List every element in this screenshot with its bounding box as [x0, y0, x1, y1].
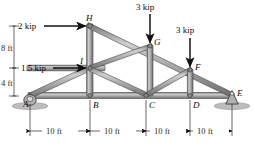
- dim-label-8ft: 8 ft: [1, 43, 13, 53]
- joint-label-H: H: [85, 13, 93, 23]
- dim-label-DE: 10 ft: [197, 126, 213, 136]
- member-G-C: [147, 45, 153, 96]
- pin-B: [88, 93, 92, 97]
- dim-label-CD: 10 ft: [154, 126, 170, 136]
- pin-C: [144, 93, 148, 97]
- pin-D: [188, 93, 192, 97]
- dim-label-4ft: 4 ft: [1, 78, 13, 88]
- load-arrow-3kip-G: 3 kip: [136, 2, 155, 43]
- pin-I: [88, 66, 92, 70]
- member-I-G: [90, 44, 153, 70]
- joint-label-G: G: [154, 37, 161, 47]
- truss-diagram: 2 kip 1.5 kip 3 kip 3 kip 8 ft 4 ft: [0, 0, 255, 149]
- joint-label-F: F: [194, 62, 201, 72]
- truss-members: [24, 23, 234, 108]
- joint-label-C: C: [149, 100, 156, 110]
- load-arrow-3kip-F: 3 kip: [176, 25, 195, 67]
- truss-svg: 2 kip 1.5 kip 3 kip 3 kip 8 ft 4 ft: [0, 0, 255, 149]
- load-label-3kip-G: 3 kip: [136, 2, 155, 12]
- horizontal-dimension-labels: 10 ft 10 ft 10 ft 10 ft: [42, 125, 229, 136]
- load-label-2kip: 2 kip: [18, 21, 37, 31]
- member-bottom-chord: [28, 93, 234, 99]
- pin-H: [88, 24, 92, 28]
- joint-label-D: D: [192, 100, 200, 110]
- member-H-B: [87, 24, 93, 96]
- pin-F: [188, 68, 192, 72]
- dim-label-AB: 10 ft: [46, 126, 62, 136]
- load-arrow-2kip: 2 kip: [18, 21, 86, 31]
- member-F-D: [187, 69, 193, 96]
- load-label-3kip-F: 3 kip: [176, 25, 195, 35]
- joint-label-I: I: [79, 56, 84, 66]
- joint-label-B: B: [93, 100, 99, 110]
- joint-label-E: E: [236, 88, 243, 98]
- pin-G: [148, 44, 152, 48]
- dim-label-BC: 10 ft: [104, 126, 120, 136]
- joint-label-A: A: [22, 99, 29, 109]
- load-label-1_5kip: 1.5 kip: [21, 63, 47, 73]
